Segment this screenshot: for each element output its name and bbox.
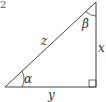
hypotenuse-label: z [40, 34, 48, 48]
beta-label: β [81, 17, 89, 31]
beta-arc [86, 12, 96, 17]
triangle-outline [5, 2, 96, 87]
alpha-label: α [24, 72, 32, 86]
vertical-leg-label: x [98, 41, 105, 55]
corner-glyph: 2 [0, 0, 6, 10]
right-triangle-diagram: 2 z x y α β [0, 0, 106, 102]
horizontal-leg-label: y [47, 88, 55, 102]
right-angle-marker [89, 80, 96, 87]
